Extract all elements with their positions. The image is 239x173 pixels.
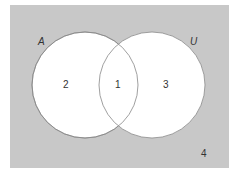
region-right-only: 3 [163, 79, 169, 90]
region-left-only: 2 [63, 79, 69, 90]
universe-label: U [190, 36, 198, 47]
region-outside: 4 [201, 148, 207, 159]
region-intersection: 1 [115, 79, 121, 90]
venn-diagram: A U 2 1 3 4 [0, 0, 239, 173]
set-a-label: A [37, 36, 45, 47]
